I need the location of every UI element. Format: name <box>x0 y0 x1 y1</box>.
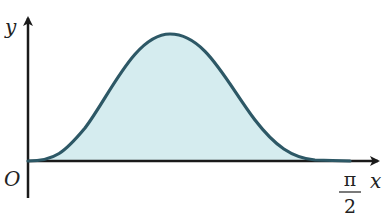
function-graph: y x O π 2 <box>0 0 388 222</box>
x-tick-pi-over-2: π 2 <box>339 168 361 217</box>
x-axis-label: x <box>370 169 381 193</box>
y-axis-label: y <box>4 15 17 39</box>
shaded-region <box>28 34 350 161</box>
tick-numerator: π <box>344 168 357 190</box>
origin-label: O <box>4 167 20 191</box>
tick-denominator: 2 <box>344 195 356 217</box>
